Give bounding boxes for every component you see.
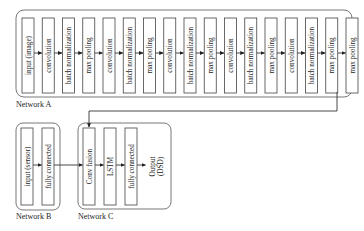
network-a-layer-label: convolution: [288, 38, 296, 73]
network-c-layer-label: Conv fusion: [86, 148, 94, 184]
network-a-layer-label: max pooling: [328, 37, 336, 74]
network-a-layer-label: max pooling: [207, 37, 215, 74]
network-a-layer-label: input (image): [25, 35, 33, 75]
network-a-layer-label: convolution: [106, 38, 114, 73]
network-a-layer-label: batch normalization: [187, 26, 195, 84]
network-a-layer-label: batch normalization: [65, 26, 73, 84]
network-a-layer-label: max pooling: [268, 37, 276, 74]
network-c-label: Network C: [78, 212, 113, 221]
architecture-diagram: input (image)convolutionbatch normalizat…: [0, 0, 364, 231]
network-c-layer-label: LSTM: [107, 156, 115, 176]
output-label-line1: Output: [149, 157, 157, 177]
network-a-layer-label: max pooling: [349, 37, 357, 74]
network-a-layer-label: batch normalization: [308, 26, 316, 84]
output-label-line2: (DSD): [157, 156, 165, 176]
network-b-layer-label: fully connected: [45, 144, 53, 189]
network-a-layer-label: batch normalization: [126, 26, 134, 84]
network-b-layer-label: input (sensor): [24, 146, 32, 186]
network-a-layer-label: convolution: [45, 38, 53, 73]
network-a-layer-label: max pooling: [85, 37, 93, 74]
network-a-label: Network A: [16, 100, 52, 109]
network-a-layer-label: convolution: [227, 38, 235, 73]
network-a-layer-label: convolution: [166, 38, 174, 73]
network-a-layers: input (image)convolutionbatch normalizat…: [22, 18, 358, 93]
network-c-layer-label: fully connected: [128, 144, 136, 189]
network-a-layer-label: batch normalization: [247, 26, 255, 84]
network-b-label: Network B: [16, 212, 51, 221]
network-a-layer-label: max pooling: [146, 37, 154, 74]
